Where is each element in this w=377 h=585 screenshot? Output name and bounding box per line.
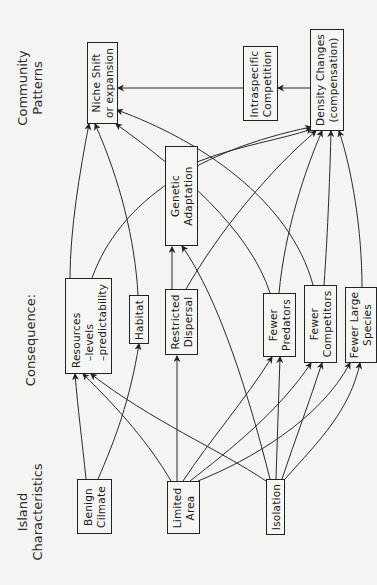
node-density-changes: Density Changes (compensation) — [310, 29, 344, 131]
node-limited-area: Limited Area — [167, 481, 200, 534]
node-fewer-predators: Fewer Predators — [263, 293, 296, 357]
node-habitat: Habitat — [129, 295, 149, 344]
node-benign-climate: Benign Cilmate — [77, 479, 112, 534]
node-fewer-competitors: Fewer Competitors — [304, 285, 337, 363]
node-fewer-large-species: Fewer Large Species — [345, 287, 377, 363]
node-intraspecific-competition: Intraspecific Competition — [243, 46, 278, 121]
node-niche-shift: Niche Shift or expansion — [87, 42, 118, 124]
node-restricted-dispersal: Restricted Dispersal — [165, 289, 198, 355]
column-title-island-characteristics: Island Characteristics — [15, 463, 45, 560]
node-resources: Resources –levels –predictability — [65, 278, 112, 374]
column-title-consequences: Consequence: — [23, 294, 38, 386]
node-isolation: Isolation — [266, 479, 285, 535]
column-title-community-patterns: Community Patterns — [15, 50, 45, 125]
node-genetic-adaptation: Genetic Adaptation — [165, 146, 198, 246]
